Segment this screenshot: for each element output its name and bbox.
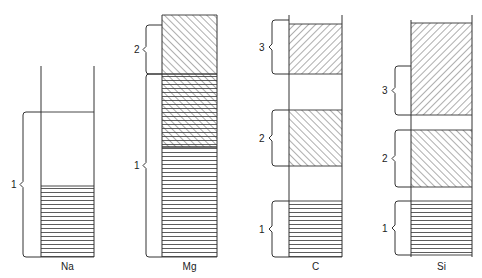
column-na: 1Na <box>11 66 94 272</box>
shell-brace <box>143 74 162 257</box>
band-horizontal <box>289 201 342 257</box>
shell-brace <box>392 66 411 115</box>
shell-number-label: 2 <box>259 133 265 144</box>
band-horizontal <box>162 147 217 257</box>
band-horizontal <box>41 186 94 257</box>
element-label: Mg <box>183 261 197 272</box>
column-si: 321Si <box>382 15 472 272</box>
band-crosshatch-overlay <box>162 74 217 147</box>
band-diagonal-down <box>411 23 472 115</box>
shell-brace <box>269 20 289 74</box>
shell-brace <box>392 130 411 187</box>
column-c: 321C <box>259 15 342 272</box>
band-diagonal-down <box>289 24 342 74</box>
element-label: C <box>312 261 319 272</box>
element-label: Si <box>437 261 446 272</box>
band-diagonal-up <box>289 110 342 166</box>
band-diagonal-up <box>162 15 217 74</box>
shell-brace <box>20 112 41 257</box>
band-diagonal-up <box>411 130 472 187</box>
shell-number-label: 3 <box>259 42 265 53</box>
shell-number-label: 1 <box>382 223 388 234</box>
shell-number-label: 1 <box>134 160 140 171</box>
shell-number-label: 2 <box>134 44 140 55</box>
shell-diagram: 1Na21Mg321C321Si <box>0 0 482 278</box>
shell-brace <box>269 110 289 166</box>
shell-brace <box>392 201 411 255</box>
column-mg: 21Mg <box>134 15 217 272</box>
band-horizontal <box>411 201 472 255</box>
shell-number-label: 2 <box>382 153 388 164</box>
shell-brace <box>143 25 162 74</box>
shell-number-label: 3 <box>382 85 388 96</box>
shell-number-label: 1 <box>259 224 265 235</box>
shell-number-label: 1 <box>11 179 17 190</box>
element-label: Na <box>61 261 74 272</box>
shell-brace <box>269 201 289 257</box>
